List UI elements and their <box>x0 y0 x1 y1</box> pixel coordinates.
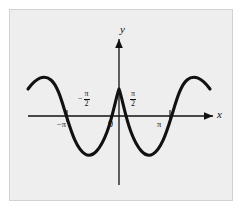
tick-label-neg-pi: −π <box>57 120 66 129</box>
tick-label-pos-pi: π <box>157 120 161 129</box>
x-axis-arrowhead <box>204 112 213 120</box>
minus-sign: − <box>78 95 83 103</box>
fraction-stack: π 2 <box>130 90 136 108</box>
graph-canvas <box>10 10 233 201</box>
fraction-numerator: π <box>131 90 135 99</box>
figure-root: y x 0 −π π − π 2 π 2 <box>0 0 243 212</box>
y-axis-arrowhead <box>115 39 123 48</box>
tick-label-pos-half-pi: π 2 <box>130 90 136 108</box>
fraction-numerator: π <box>84 90 88 99</box>
tick-label-neg-half-pi: − π 2 <box>78 90 90 108</box>
x-axis-label: x <box>217 109 222 120</box>
fraction-denominator: 2 <box>85 100 89 109</box>
origin-label: 0 <box>108 119 113 129</box>
y-axis-label: y <box>120 24 125 35</box>
fraction-stack: π 2 <box>84 90 90 108</box>
figure-panel: y x 0 −π π − π 2 π 2 <box>9 9 233 201</box>
fraction-denominator: 2 <box>131 100 135 109</box>
